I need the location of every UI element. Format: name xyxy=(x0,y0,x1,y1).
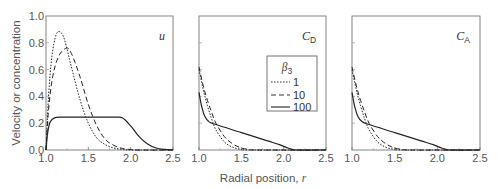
series-line-beta3-10 xyxy=(46,48,173,150)
y-tick-label: 0.4 xyxy=(29,90,44,102)
panel-label-cd: CD xyxy=(302,29,316,45)
x-axis-title-var: r xyxy=(302,172,307,184)
panel-label-u: u xyxy=(159,29,165,43)
legend-title-sub: 3 xyxy=(288,66,293,76)
panel-label-cd-sub: D xyxy=(310,35,316,45)
y-tick-labels: 1.0 0.8 0.6 0.4 0.2 0.0 xyxy=(29,10,44,156)
panel-label-ca-sub: A xyxy=(464,35,470,45)
x-axis-title-text: Radial position, xyxy=(220,172,302,184)
figure: Velocity or concentration 1.0 0.8 0.6 0.… xyxy=(0,0,498,189)
x-tick-label: 1.5 xyxy=(234,152,249,164)
x-axis-title: Radial position, r xyxy=(220,172,307,184)
x-tick-label: 2.0 xyxy=(430,152,445,164)
legend-label: 100 xyxy=(293,101,311,113)
x-tick-label: 1.5 xyxy=(387,152,402,164)
x-tick-label: 2.0 xyxy=(123,152,138,164)
panel-label-ca: CA xyxy=(456,29,470,45)
series-line-beta3-100 xyxy=(46,117,173,150)
y-tick-label: 0.8 xyxy=(29,37,44,49)
x-tick-label: 2.0 xyxy=(276,152,291,164)
x-tick-label: 2.5 xyxy=(165,152,180,164)
x-tick-label: 2.5 xyxy=(318,152,333,164)
x-tick-label: 1.0 xyxy=(344,152,359,164)
series-line-beta3-1 xyxy=(46,31,173,150)
series-line-beta3-100 xyxy=(352,92,480,150)
series-line-beta3-1 xyxy=(352,70,480,150)
x-tick-label: 1.0 xyxy=(38,152,53,164)
y-tick-label: 0.2 xyxy=(29,117,44,129)
y-tick-label: 1.0 xyxy=(29,10,44,22)
legend-label: 10 xyxy=(293,89,305,101)
y-axis-title: Velocity or concentration xyxy=(10,20,22,145)
x-tick-label: 2.5 xyxy=(472,152,487,164)
x-tick-label: 1.0 xyxy=(191,152,206,164)
legend: β3 1 10 100 xyxy=(267,56,317,113)
series-line-beta3-10 xyxy=(352,67,480,150)
plot-frame xyxy=(46,16,173,150)
legend-label: 1 xyxy=(293,76,299,88)
y-tick-label: 0.6 xyxy=(29,64,44,76)
x-tick-label: 1.5 xyxy=(81,152,96,164)
